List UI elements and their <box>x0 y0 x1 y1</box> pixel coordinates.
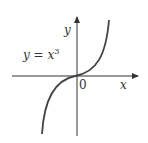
origin-label: 0 <box>79 78 87 92</box>
y-axis-label: y <box>63 23 71 37</box>
equation-label: y = x3 <box>22 47 59 62</box>
x-axis-label: x <box>120 78 127 92</box>
cubic-graph: y x 0 y = x3 <box>0 0 148 143</box>
cubic-curve <box>42 20 109 134</box>
